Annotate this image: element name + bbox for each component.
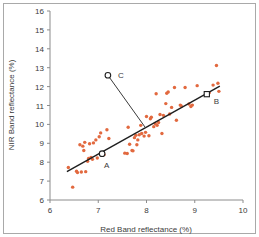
data-points-layer	[67, 64, 221, 189]
x-tick-label: 10	[239, 206, 248, 215]
data-point	[107, 137, 110, 140]
data-point	[164, 102, 167, 105]
data-point	[145, 115, 148, 118]
data-point	[98, 135, 101, 138]
annotated-label-a: A	[104, 161, 110, 170]
data-point	[88, 142, 91, 145]
data-point	[139, 124, 142, 127]
data-point	[83, 141, 86, 144]
data-point	[140, 132, 143, 135]
annotated-label-b: B	[214, 97, 219, 106]
data-point	[173, 86, 176, 89]
y-tick-label: 14	[35, 45, 44, 54]
data-point	[147, 134, 150, 137]
data-point	[158, 113, 161, 116]
data-point	[136, 138, 139, 141]
annotated-marker-b	[204, 92, 209, 97]
data-point	[191, 103, 194, 106]
data-point	[80, 170, 83, 173]
x-tick-label: 8	[144, 206, 149, 215]
y-tick-label: 16	[35, 7, 44, 16]
scatter-plot: 678910111213141516 678910 ABC Red Band r…	[0, 0, 259, 237]
data-point	[183, 86, 186, 89]
y-axis: 678910111213141516	[35, 7, 50, 205]
data-point	[142, 134, 145, 137]
data-point	[84, 170, 87, 173]
annotated-marker-a	[99, 151, 105, 157]
figure-container: 678910111213141516 678910 ABC Red Band r…	[0, 0, 259, 237]
data-point	[135, 143, 138, 146]
x-axis: 678910	[48, 200, 248, 215]
data-point	[94, 138, 97, 141]
y-tick-label: 6	[40, 196, 45, 205]
data-point	[152, 125, 155, 128]
y-tick-label: 15	[35, 26, 44, 35]
data-point	[131, 149, 134, 152]
x-tick-label: 7	[96, 206, 101, 215]
data-point	[82, 149, 85, 152]
data-point	[217, 90, 220, 93]
data-point	[67, 166, 70, 169]
y-tick-label: 10	[35, 120, 44, 129]
data-point	[78, 143, 81, 146]
data-point	[126, 126, 129, 129]
data-point	[71, 185, 74, 188]
data-point	[150, 116, 153, 119]
data-point	[175, 119, 178, 122]
y-tick-label: 8	[40, 158, 45, 167]
regression-line-layer	[67, 86, 220, 171]
data-point	[170, 106, 173, 109]
data-point	[167, 90, 170, 93]
data-point	[128, 143, 131, 146]
y-axis-title: NIR Band reflectance (%)	[7, 59, 16, 150]
data-point	[99, 131, 102, 134]
data-point	[126, 152, 129, 155]
data-point	[195, 84, 198, 87]
y-tick-label: 7	[40, 177, 45, 186]
x-tick-label: 6	[48, 206, 53, 215]
y-tick-label: 13	[35, 64, 44, 73]
residual-line-layer	[108, 75, 146, 128]
data-point	[96, 156, 99, 159]
data-point	[160, 132, 163, 135]
data-point	[76, 171, 79, 174]
x-axis-title: Red Band reflectance (%)	[100, 225, 192, 234]
data-point	[215, 64, 218, 67]
data-point	[81, 144, 84, 147]
residual-line-c	[108, 75, 146, 128]
annotated-marker-c	[105, 72, 111, 78]
data-point	[92, 141, 95, 144]
y-tick-label: 9	[40, 139, 45, 148]
x-tick-label: 9	[193, 206, 198, 215]
data-point	[211, 83, 214, 86]
regression-line	[67, 86, 220, 171]
y-tick-label: 12	[35, 83, 44, 92]
data-point	[105, 128, 108, 131]
data-point	[216, 82, 219, 85]
data-point	[154, 92, 157, 95]
data-point	[144, 131, 147, 134]
annotated-label-c: C	[118, 71, 124, 80]
y-tick-label: 11	[36, 102, 45, 111]
